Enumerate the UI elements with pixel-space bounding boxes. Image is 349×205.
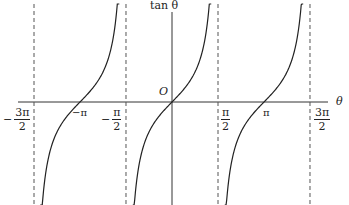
tick-label-pi: π — [263, 108, 270, 118]
tick-label-neg-3pi-2: − 3π2 — [3, 107, 30, 132]
tick-label-neg-pi-2: − π2 — [101, 107, 121, 132]
tick-label-pi-2: π2 — [221, 107, 230, 132]
x-axis-label: θ — [336, 96, 343, 107]
origin-label: O — [159, 86, 168, 97]
tick-label-neg-pi: −π — [72, 108, 87, 118]
tan-branch — [40, 4, 119, 205]
tan-branch — [225, 4, 303, 205]
tick-label-3pi-2: 3π2 — [314, 107, 330, 132]
y-axis-label: tan θ — [150, 0, 178, 11]
tangent-plot — [0, 0, 349, 205]
